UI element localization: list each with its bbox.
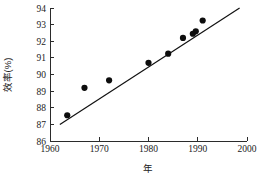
axis-lines: [50, 8, 247, 141]
regression-line-group: [60, 8, 240, 124]
x-tick-labels: 1960 1970 1980 1990 2000: [41, 144, 257, 154]
y-tick-label-88: 88: [37, 103, 47, 113]
y-tick-label-94: 94: [37, 4, 47, 14]
y-tick-label-93: 93: [37, 20, 47, 30]
data-point: [106, 77, 112, 83]
data-point: [145, 60, 151, 66]
data-point: [81, 85, 87, 91]
data-point: [165, 51, 171, 57]
scatter-plot-svg: 94 93 92 91 90 89 88 87 86 1960 1970 198…: [0, 0, 274, 177]
data-point: [200, 17, 206, 23]
x-tick-label-1970: 1970: [90, 144, 109, 154]
y-tick-marks: [50, 8, 54, 141]
y-tick-label-87: 87: [37, 120, 47, 130]
regression-line: [60, 8, 240, 124]
x-tick-marks: [50, 137, 247, 141]
x-tick-label-1990: 1990: [188, 144, 207, 154]
x-tick-label-1960: 1960: [41, 144, 60, 154]
y-tick-label-91: 91: [37, 53, 47, 63]
y-tick-labels: 94 93 92 91 90 89 88 87 86: [37, 4, 47, 147]
y-tick-label-90: 90: [37, 70, 47, 80]
chart-figure: 94 93 92 91 90 89 88 87 86 1960 1970 198…: [0, 0, 274, 177]
data-point: [180, 35, 186, 41]
y-tick-label-89: 89: [37, 87, 47, 97]
x-tick-label-1980: 1980: [139, 144, 158, 154]
data-points-group: [64, 17, 206, 118]
y-tick-label-92: 92: [37, 37, 47, 47]
y-axis-title: 效率(%): [2, 58, 13, 93]
data-point: [64, 112, 70, 118]
data-point: [193, 28, 199, 34]
x-axis-title: 年: [143, 163, 153, 174]
x-tick-label-2000: 2000: [238, 144, 257, 154]
